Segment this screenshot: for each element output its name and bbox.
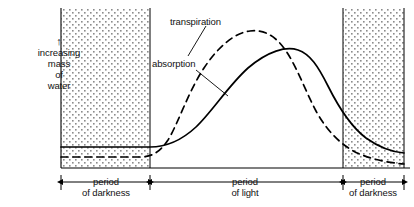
period-label-dark-right: period of darkness [349, 176, 397, 198]
y-axis-label: ↑ increasing mass of water [30, 36, 88, 91]
period-label-dark-right-line-2: of darkness [349, 187, 397, 198]
period-label-dark-left-line-2: of darkness [82, 187, 130, 198]
period-label-dark-left-line-1: period [93, 176, 119, 187]
y-axis-label-line-4: water [30, 80, 88, 91]
y-axis-label-line-2: mass [30, 58, 88, 69]
transpiration-label: transpiration [170, 16, 221, 27]
y-axis-label-line-1: increasing [30, 47, 88, 58]
period-label-dark-left: period of darkness [82, 176, 130, 198]
period-label-light: period of light [231, 176, 258, 198]
y-axis-label-line-3: of [30, 69, 88, 80]
period-label-light-line-1: period [232, 176, 258, 187]
period-label-dark-right-line-1: period [360, 176, 386, 187]
period-label-light-line-2: of light [231, 187, 258, 198]
dark-period-right-shading [343, 8, 404, 168]
y-axis-up-arrow-icon: ↑ [30, 36, 88, 46]
absorption-label: absorption [152, 58, 195, 69]
